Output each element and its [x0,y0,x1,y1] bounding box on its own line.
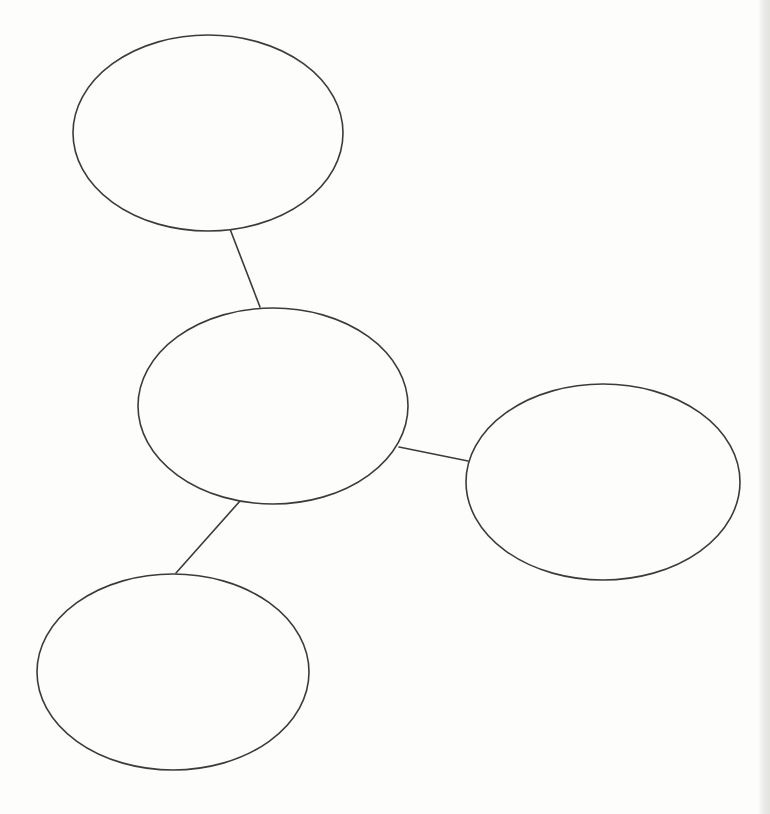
bubble-top-left [73,35,343,231]
connector-center-bottomleft [176,501,240,573]
bubble-bottom-left [37,574,309,770]
worksheet-page [0,0,770,814]
bubble-right [466,384,740,580]
bubble-nodes-group [37,35,740,770]
concept-map-canvas [0,0,770,814]
bubble-center [138,308,408,504]
connector-center-right [399,447,468,461]
connector-topleft-center [230,229,260,307]
